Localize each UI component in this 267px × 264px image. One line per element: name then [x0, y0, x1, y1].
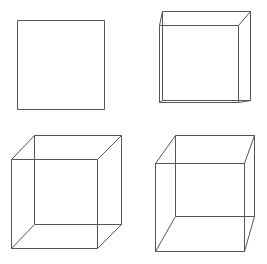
figure-cube-left	[12, 136, 122, 249]
connector-top-right	[98, 136, 122, 160]
connector-bottom-right	[98, 225, 122, 249]
connector-top-left	[156, 136, 176, 164]
connector-bottom-left	[156, 217, 176, 252]
figure-shallow-cube	[160, 12, 251, 103]
connector-bottom-right	[245, 217, 255, 252]
cube-diagram	[0, 0, 267, 264]
connector-top-right	[239, 12, 251, 26]
connector-bottom-left	[12, 225, 35, 249]
connector-top-right	[245, 136, 255, 164]
figure-square	[18, 21, 105, 110]
figure-cube-right	[156, 136, 255, 252]
connector-top-left	[12, 136, 35, 160]
